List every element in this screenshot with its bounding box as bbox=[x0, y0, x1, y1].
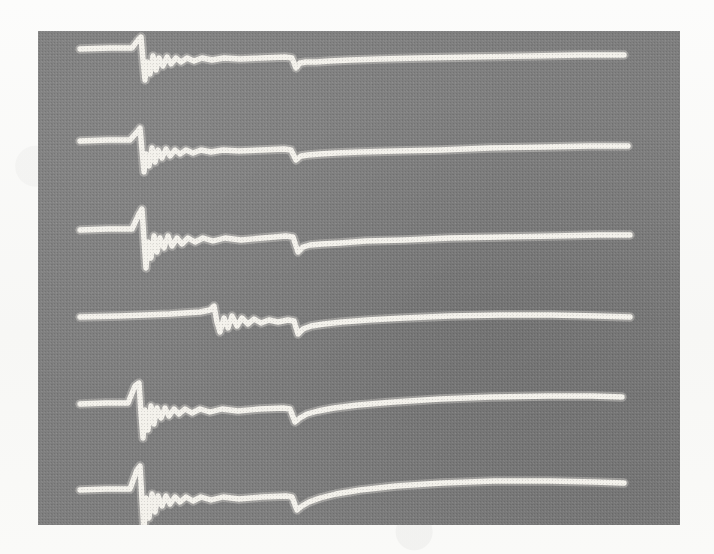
oscilloscope-trace-group bbox=[38, 31, 680, 525]
trace-2-group bbox=[80, 128, 628, 172]
figure-canvas bbox=[0, 0, 714, 554]
trace-6-glow bbox=[80, 466, 624, 525]
trace-5-group bbox=[80, 383, 622, 438]
trace-6-group bbox=[80, 466, 624, 525]
oscillogram-photo-region bbox=[38, 31, 680, 525]
trace-4-group bbox=[80, 306, 630, 334]
trace-3-group bbox=[80, 209, 630, 268]
trace-1-group bbox=[80, 37, 624, 80]
